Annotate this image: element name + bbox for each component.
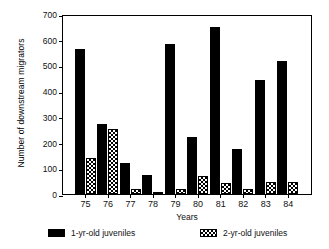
bar-79-series1 bbox=[165, 44, 175, 194]
y-tick-label: 300 bbox=[23, 113, 57, 123]
bar-79-series2 bbox=[176, 189, 186, 194]
bar-77-series2 bbox=[131, 189, 141, 194]
y-tick-label: 500 bbox=[23, 61, 57, 71]
x-tick-mark bbox=[130, 194, 131, 198]
legend-swatch-solid-icon bbox=[48, 229, 65, 237]
bar-82-series1 bbox=[232, 149, 242, 194]
y-tick-mark bbox=[59, 170, 63, 171]
legend-item-2-yr-old-juveniles: 2-yr-old juveniles bbox=[200, 228, 287, 238]
bar-group bbox=[120, 16, 141, 194]
legend-label-2: 2-yr-old juveniles bbox=[223, 228, 287, 238]
x-tick-mark bbox=[265, 194, 266, 198]
y-tick-label: 400 bbox=[23, 87, 57, 97]
x-tick-mark bbox=[175, 194, 176, 198]
y-tick-mark bbox=[59, 144, 63, 145]
y-tick-mark bbox=[59, 93, 63, 94]
y-tick-label: 600 bbox=[23, 36, 57, 46]
y-tick-label: 700 bbox=[23, 10, 57, 20]
bar-group bbox=[255, 16, 276, 194]
y-tick-mark bbox=[59, 118, 63, 119]
bar-group bbox=[165, 16, 186, 194]
chart-legend: 1-yr-old juveniles 2-yr-old juveniles bbox=[0, 228, 329, 248]
y-tick-label: 0 bbox=[23, 190, 57, 200]
x-tick-mark bbox=[153, 194, 154, 198]
x-tick-mark bbox=[85, 194, 86, 198]
bar-80-series1 bbox=[187, 137, 197, 194]
plot-area: 0100200300400500600700 75767778798081828… bbox=[62, 15, 312, 195]
bar-group bbox=[210, 16, 231, 194]
bars-layer bbox=[63, 16, 311, 194]
bar-80-series2 bbox=[198, 176, 208, 194]
y-tick-label: 200 bbox=[23, 139, 57, 149]
bar-77-series1 bbox=[120, 163, 130, 194]
bar-76-series2 bbox=[108, 129, 118, 194]
bar-83-series1 bbox=[255, 80, 265, 194]
x-tick-label: 84 bbox=[274, 199, 302, 209]
y-tick-mark bbox=[59, 16, 63, 17]
x-axis-title: Years bbox=[62, 212, 312, 222]
bar-78-series2 bbox=[153, 192, 163, 194]
bar-group bbox=[75, 16, 96, 194]
bar-group bbox=[142, 16, 163, 194]
bar-group bbox=[232, 16, 253, 194]
legend-item-1-yr-old-juveniles: 1-yr-old juveniles bbox=[48, 228, 135, 238]
y-tick-mark bbox=[59, 196, 63, 197]
legend-label-1: 1-yr-old juveniles bbox=[71, 228, 135, 238]
bar-81-series2 bbox=[221, 183, 231, 194]
x-tick-mark bbox=[108, 194, 109, 198]
x-tick-mark bbox=[220, 194, 221, 198]
legend-swatch-hatch-icon bbox=[200, 229, 217, 237]
y-tick-mark bbox=[59, 67, 63, 68]
x-tick-mark bbox=[243, 194, 244, 198]
y-tick-label: 100 bbox=[23, 164, 57, 174]
y-tick-mark bbox=[59, 41, 63, 42]
bar-75-series2 bbox=[86, 158, 96, 194]
bar-83-series2 bbox=[266, 182, 276, 194]
bar-75-series1 bbox=[75, 49, 85, 194]
bar-84-series1 bbox=[277, 61, 287, 194]
bar-group bbox=[187, 16, 208, 194]
bar-76-series1 bbox=[97, 124, 107, 194]
x-tick-mark bbox=[198, 194, 199, 198]
bar-group bbox=[97, 16, 118, 194]
x-tick-mark bbox=[288, 194, 289, 198]
bar-84-series2 bbox=[288, 182, 298, 194]
bar-group bbox=[277, 16, 298, 194]
bar-78-series1 bbox=[142, 175, 152, 194]
bar-81-series1 bbox=[210, 27, 220, 194]
bar-82-series2 bbox=[243, 189, 253, 194]
bar-chart-figure: Number of downstream migrators 010020030… bbox=[0, 0, 329, 249]
